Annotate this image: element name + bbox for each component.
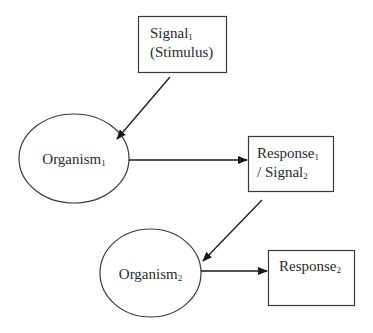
response2-label: Response2 xyxy=(279,257,341,276)
signal1-line1: Signal1 xyxy=(150,24,213,43)
organism1-text: Organism xyxy=(42,151,101,167)
response1-signal2-label: Response1 / Signal2 xyxy=(257,144,319,182)
organism1-subscript: 1 xyxy=(101,158,106,168)
response2-text: Response xyxy=(279,258,337,274)
organism2-subscript: 2 xyxy=(178,273,183,283)
signal1-line2: (Stimulus) xyxy=(150,43,213,62)
stimulus-text: (Stimulus) xyxy=(150,44,213,60)
organism2-text: Organism xyxy=(119,266,178,282)
signal1-subscript: 1 xyxy=(188,32,193,42)
arrow-signal2-to-organism2 xyxy=(203,200,262,261)
organism1-label: Organism1 xyxy=(19,150,129,169)
response1-text: Response xyxy=(257,145,315,161)
signal2-text: / Signal xyxy=(257,164,303,180)
response2-subscript: 2 xyxy=(337,265,342,275)
response1-subscript: 1 xyxy=(315,152,320,162)
signal1-text: Signal xyxy=(150,25,188,41)
signal2-line: / Signal2 xyxy=(257,163,319,182)
organism2-label: Organism2 xyxy=(100,265,201,284)
signal2-subscript: 2 xyxy=(303,171,308,181)
arrow-signal1-to-organism1 xyxy=(117,77,170,139)
signal1-label: Signal1 (Stimulus) xyxy=(150,24,213,62)
response1-line: Response1 xyxy=(257,144,319,163)
